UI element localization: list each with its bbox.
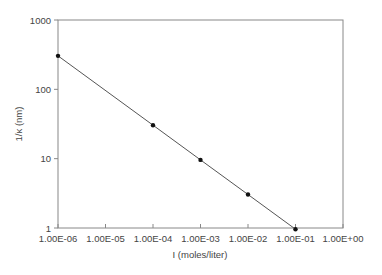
data-point-marker — [246, 192, 250, 196]
y-tick-label: 10 — [40, 153, 51, 164]
y-tick-label: 1000 — [30, 15, 51, 26]
series-line — [58, 56, 296, 229]
plot-border — [58, 20, 343, 228]
data-point-marker — [198, 158, 202, 162]
data-point-marker — [56, 54, 60, 58]
log-log-chart: 1101001000 1.00E-061.00E-051.00E-041.00E… — [0, 0, 382, 275]
y-tick-label: 1 — [46, 223, 51, 234]
x-axis-ticks: 1.00E-061.00E-051.00E-041.00E-031.00E-02… — [39, 224, 364, 244]
x-tick-label: 1.00E-03 — [181, 233, 220, 244]
x-tick-label: 1.00E+00 — [323, 233, 364, 244]
data-point-marker — [151, 123, 155, 127]
x-tick-label: 1.00E-02 — [229, 233, 268, 244]
plot-frame — [58, 20, 343, 228]
x-tick-label: 1.00E-01 — [276, 233, 315, 244]
x-tick-label: 1.00E-05 — [86, 233, 125, 244]
data-point-marker — [293, 227, 297, 231]
data-series — [56, 54, 298, 232]
y-tick-label: 100 — [35, 84, 51, 95]
x-axis-label: I (moles/liter) — [173, 249, 228, 260]
x-tick-label: 1.00E-06 — [39, 233, 78, 244]
x-tick-label: 1.00E-04 — [134, 233, 173, 244]
y-axis-label: 1/κ (nm) — [13, 107, 24, 142]
y-axis-ticks: 1101001000 — [30, 15, 58, 234]
